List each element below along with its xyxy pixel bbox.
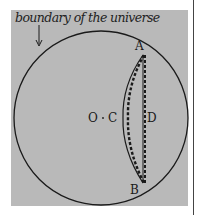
center-point-dot [102,117,104,119]
label-A: A [134,39,144,53]
arrow-pointer [36,25,42,46]
label-O: O [88,111,98,125]
curved-surface-AB [123,55,145,183]
label-C: C [108,111,117,125]
boundary-circle [14,31,188,205]
label-D: D [147,111,157,125]
label-B: B [130,183,139,197]
universe-diagram: A B C D O [0,0,198,215]
